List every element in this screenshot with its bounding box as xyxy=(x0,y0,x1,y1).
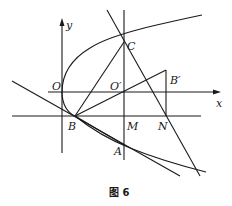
point-label-N: N xyxy=(157,120,168,133)
point-label-B-prime: B′ xyxy=(169,74,181,87)
y-axis-arrow-icon xyxy=(60,18,65,26)
y-axis-label: y xyxy=(65,19,73,32)
point-label-B: B xyxy=(67,120,76,133)
figure-6-diagram: y x O O′ B B′ C M N A 图 6 xyxy=(0,0,232,206)
geometry-canvas: y x O O′ B B′ C M N A 图 6 xyxy=(0,0,232,206)
x-axis-arrow-icon xyxy=(213,90,221,95)
segment-BBprime xyxy=(75,70,166,116)
point-label-M: M xyxy=(126,120,139,133)
figure-caption: 图 6 xyxy=(109,187,129,198)
point-label-O-prime: O′ xyxy=(110,80,122,93)
point-label-O: O xyxy=(52,80,61,93)
x-axis-label: x xyxy=(216,97,223,110)
segment-BA xyxy=(75,116,124,145)
point-label-A: A xyxy=(113,145,122,158)
point-label-C: C xyxy=(127,40,136,53)
